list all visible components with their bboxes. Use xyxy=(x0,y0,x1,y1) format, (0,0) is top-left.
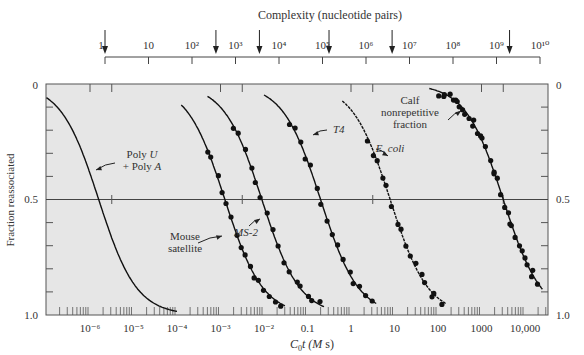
data-point xyxy=(462,112,467,117)
data-point xyxy=(308,162,313,167)
data-point xyxy=(205,150,210,155)
series-label: Poly U xyxy=(127,148,159,160)
complexity-axis-label: Complexity (nucleotide pairs) xyxy=(258,8,402,22)
complexity-tick-label: 10² xyxy=(185,39,200,51)
y-tick-10-left: 1.0 xyxy=(24,309,38,321)
series-label: Mouse xyxy=(170,230,200,242)
data-point xyxy=(422,280,427,285)
data-point xyxy=(276,243,281,248)
data-point xyxy=(413,261,418,266)
data-point xyxy=(309,298,314,303)
data-point xyxy=(380,176,385,181)
data-point xyxy=(517,243,522,248)
y-tick-05-right: 0.5 xyxy=(556,193,570,205)
x-tick-label: 10⁻⁶ xyxy=(80,322,101,334)
x-tick-label: 10 xyxy=(389,322,401,334)
complexity-axis: Complexity (nucleotide pairs) 11010²10³1… xyxy=(98,8,550,64)
series-label: E. coli xyxy=(375,142,405,154)
series-label: satellite xyxy=(168,242,202,254)
data-point xyxy=(389,204,394,209)
complexity-tick-label: 1 xyxy=(98,39,104,51)
data-point xyxy=(293,125,298,130)
y-tick-10-right: 1.0 xyxy=(556,309,570,321)
x-tick-label: 10⁻³ xyxy=(210,322,231,334)
data-point xyxy=(395,222,400,227)
data-point xyxy=(520,248,525,253)
data-point xyxy=(398,227,403,232)
data-point xyxy=(483,144,488,149)
data-point xyxy=(243,252,248,257)
arrow-down-icon xyxy=(213,46,219,54)
data-point xyxy=(317,299,322,304)
complexity-tick-label: 10¹⁰ xyxy=(531,39,550,51)
data-point xyxy=(383,183,388,188)
data-point xyxy=(351,281,356,286)
data-point xyxy=(256,278,261,283)
data-point xyxy=(281,260,286,265)
data-point xyxy=(357,284,362,289)
data-point xyxy=(335,242,340,247)
x-tick-label: 1000 xyxy=(471,322,494,334)
data-point xyxy=(231,126,236,131)
data-point xyxy=(287,122,292,127)
data-point xyxy=(236,131,241,136)
data-point xyxy=(223,201,228,206)
data-point xyxy=(403,244,408,249)
reassociation-kinetics-chart: Complexity (nucleotide pairs) 11010²10³1… xyxy=(0,0,584,355)
y-tick-05-left: 0.5 xyxy=(24,193,38,205)
x-tick-label: 100 xyxy=(430,322,447,334)
data-point xyxy=(348,270,353,275)
data-point xyxy=(248,264,253,269)
x-tick-label: 0.1 xyxy=(301,322,315,334)
data-point xyxy=(216,173,221,178)
complexity-tick-label: 10⁸ xyxy=(446,39,461,51)
data-point xyxy=(330,232,335,237)
data-point xyxy=(363,293,368,298)
data-point xyxy=(470,124,475,129)
x-tick-label: 10,000 xyxy=(510,322,541,334)
complexity-tick-label: 10⁷ xyxy=(402,39,417,51)
data-point xyxy=(265,210,270,215)
data-point xyxy=(448,92,453,97)
data-point xyxy=(513,235,518,240)
series-label: nonrepetitive xyxy=(381,106,439,118)
data-point xyxy=(471,118,476,123)
data-point xyxy=(270,227,275,232)
data-point xyxy=(535,282,540,287)
data-point xyxy=(228,214,233,219)
y-tick-0-right: 0 xyxy=(556,79,562,91)
data-point xyxy=(298,140,303,145)
data-point xyxy=(455,99,460,104)
data-point xyxy=(370,298,375,303)
data-point xyxy=(325,219,330,224)
data-point xyxy=(436,93,441,98)
data-point xyxy=(208,155,213,160)
data-point xyxy=(492,170,497,175)
series-label: Calf xyxy=(401,94,420,106)
x-tick-label: 10⁻⁴ xyxy=(167,322,188,334)
data-point xyxy=(522,255,527,260)
data-point xyxy=(467,116,472,121)
complexity-tick-label: 10³ xyxy=(228,39,243,51)
data-point xyxy=(273,299,278,304)
x-tick-label: 10⁻⁵ xyxy=(123,322,144,334)
x-tick-label: 10⁻² xyxy=(254,322,275,334)
plot-area: Poly U+ Poly AMousesatelliteMS-2T4E. col… xyxy=(46,84,548,315)
data-point xyxy=(253,180,258,185)
complexity-tick-label: 10⁶ xyxy=(359,39,374,51)
data-point xyxy=(261,288,266,293)
data-point xyxy=(479,135,484,140)
data-point xyxy=(442,92,447,97)
data-point xyxy=(267,294,272,299)
arrow-down-icon xyxy=(389,46,395,54)
series-label: T4 xyxy=(333,123,345,135)
data-point xyxy=(498,192,503,197)
data-point xyxy=(530,268,535,273)
complexity-tick-label: 10⁴ xyxy=(272,39,287,51)
data-point xyxy=(502,205,507,210)
data-point xyxy=(509,223,514,228)
x-axis-label: C0t (M s) xyxy=(290,337,334,353)
x-tick-labels: 10⁻⁶10⁻⁵10⁻⁴10⁻³10⁻²0.1110100100010,000 xyxy=(80,322,541,334)
complexity-tick-label: 10⁹ xyxy=(489,39,504,51)
data-point xyxy=(525,262,530,267)
